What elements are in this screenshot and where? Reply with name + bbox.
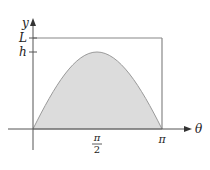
x-axis-label: θ <box>195 122 203 136</box>
y-axis-label: y <box>21 16 29 30</box>
x-tick-label-pi-half-num: π <box>93 132 101 143</box>
x-tick-label-pi: π <box>157 133 166 146</box>
y-axis-arrow-icon <box>30 18 36 26</box>
shaded-region <box>33 52 162 129</box>
diagram-canvas: y L h θ π 2 π <box>0 0 210 170</box>
x-tick-label-pi-half-den: 2 <box>94 144 100 155</box>
y-tick-label-h: h <box>19 45 27 59</box>
x-axis-arrow-icon <box>184 126 192 132</box>
y-tick-label-L: L <box>18 31 27 45</box>
